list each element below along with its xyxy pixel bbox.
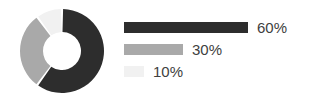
legend-item[interactable]: 30%: [124, 42, 222, 56]
chart-legend: 60% 30% 10%: [124, 20, 309, 86]
donut-chart: [20, 9, 104, 93]
legend-swatch-bar: [124, 44, 183, 55]
donut-slice[interactable]: [20, 18, 50, 85]
donut-slice-group: [20, 9, 104, 93]
legend-item[interactable]: 10%: [124, 64, 183, 78]
donut-chart-svg: [20, 9, 104, 93]
legend-value-label: 60%: [257, 20, 287, 35]
legend-value-label: 10%: [153, 64, 183, 79]
legend-swatch-bar: [124, 66, 144, 77]
legend-swatch-bar: [124, 22, 248, 33]
legend-value-label: 30%: [192, 42, 222, 57]
donut-chart-figure: 60% 30% 10%: [0, 0, 309, 102]
legend-item[interactable]: 60%: [124, 20, 287, 34]
